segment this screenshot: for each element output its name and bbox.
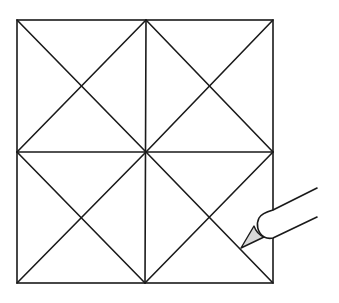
grid-lines [17, 20, 273, 283]
diagram-canvas [0, 0, 339, 303]
grid-diagram [0, 0, 339, 303]
pencil-icon [241, 188, 317, 248]
